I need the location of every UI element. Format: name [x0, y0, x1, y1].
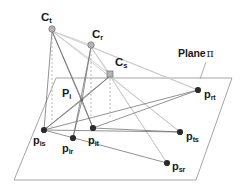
camera-label-cr-base: C — [92, 28, 100, 40]
plane-point-label-pts-base: p — [186, 130, 193, 142]
dark-ray-Cr-pir — [73, 47, 91, 138]
camera-center-marker-Ct — [49, 26, 55, 32]
dark-ray-Cr-Pi — [82, 47, 91, 100]
camera-label-cs-base: C — [115, 56, 123, 68]
dark-ray-Ct-pis — [44, 31, 52, 130]
camera-label-cs: Cs — [115, 57, 127, 69]
plane-point-pir — [70, 135, 76, 141]
plane-point-psr — [164, 160, 170, 166]
plane-point-label-psr-sub: sr — [179, 165, 185, 174]
plane-point-label-psr-base: p — [172, 160, 179, 172]
dark-ray-pit-prt — [93, 90, 198, 128]
plane-point-label-pir: pir — [62, 143, 73, 154]
figure-canvas: Ct Cr Cs Pi pis pir pit prt pts psr Plan… — [0, 0, 247, 190]
plane-pi-label: Planeπ — [178, 48, 214, 59]
camera-label-ct-sub: t — [49, 16, 51, 25]
plane-point-label-prt-base: p — [204, 88, 211, 100]
intersection-point-dot — [81, 99, 84, 102]
plane-point-label-pit: pit — [88, 135, 99, 146]
plane-point-label-pir-base: p — [62, 142, 69, 154]
plane-point-pis — [41, 127, 47, 133]
plane-point-label-prt: prt — [204, 89, 215, 100]
plane-point-label-pts: pts — [186, 131, 199, 142]
plane-point-label-pit-base: p — [88, 134, 95, 146]
plane-point-pts — [177, 129, 183, 135]
plane-point-label-pit-sub: it — [95, 139, 99, 148]
plane-point-prt — [195, 87, 201, 93]
camera-label-cs-sub: s — [123, 61, 127, 70]
camera-label-cr: Cr — [92, 29, 103, 41]
camera-center-marker-Cs — [107, 71, 113, 77]
plane-point-label-pis: pis — [33, 135, 45, 146]
plane-point-label-pir-sub: ir — [69, 147, 73, 156]
plane-point-label-psr: psr — [172, 161, 185, 172]
camera-center-marker-Cr — [88, 42, 94, 48]
plane-point-label-pis-base: p — [33, 134, 40, 146]
camera-label-ct: Ct — [41, 12, 52, 24]
intersection-point-label-sub: i — [69, 92, 71, 101]
plane-point-label-pts-sub: ts — [193, 135, 199, 144]
light-ray-group — [52, 31, 198, 163]
plane-label-leader-line — [200, 62, 206, 79]
plane-point-pit — [90, 125, 96, 131]
plane-label-text: Plane — [178, 47, 206, 59]
intersection-point-marker — [81, 99, 84, 102]
plane-pi-symbol: π — [206, 47, 214, 60]
plane-point-label-prt-sub: rt — [211, 93, 216, 102]
camera-label-ct-base: C — [41, 11, 49, 23]
plane-point-label-pis-sub: is — [40, 139, 46, 148]
intersection-point-label: Pi — [62, 88, 71, 99]
camera-label-cr-sub: r — [100, 33, 103, 42]
light-ray-Ct-Cr — [52, 31, 91, 45]
